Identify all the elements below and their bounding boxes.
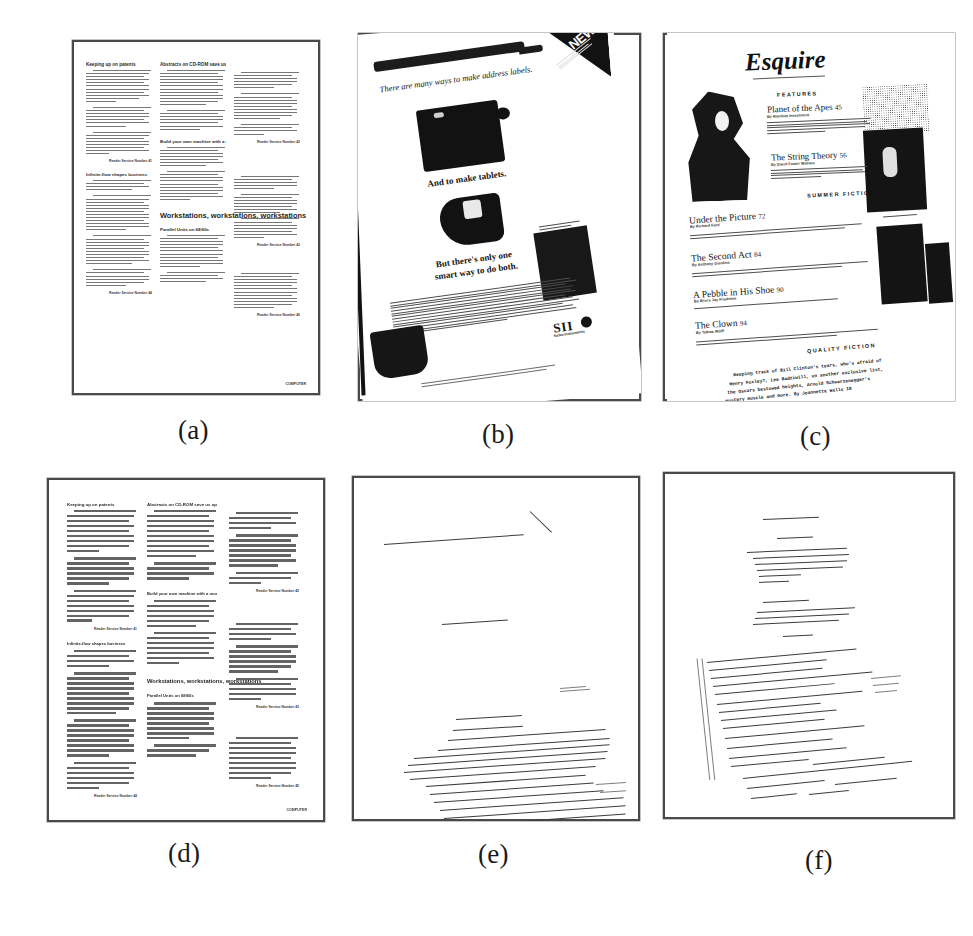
panel-e-segments (352, 476, 640, 821)
heading-parallel-units: Parallel Units on 68/60s (160, 227, 226, 232)
smeared-heading-workstations: Workstations, workstations, workstations (147, 678, 217, 684)
feature-byline-5: By Tobias Wolff (696, 329, 725, 335)
page-edge-shadow (358, 70, 366, 396)
heading-build-your-own: Build your own machine with a mouse (160, 139, 226, 144)
feature-byline-0: By Random Investment (767, 113, 809, 119)
caption-c: (c) (800, 421, 831, 452)
photo-inset-right-mid (876, 223, 927, 304)
baseline-segment (747, 780, 825, 789)
smeared-heading-3: Infinite-flow shapes business (67, 641, 137, 646)
handheld-device-screen (462, 199, 482, 219)
feature-byline-1: By David Foster Wallace (771, 161, 815, 167)
masthead-rule (753, 76, 825, 81)
reader-service-3: Reader Service Number 43 (234, 243, 300, 247)
baseline-segment (442, 619, 508, 625)
baseline-segment (727, 738, 833, 749)
panel-f-segments (663, 472, 955, 819)
feature-blurb-1 (771, 166, 871, 181)
baseline-segment (384, 534, 524, 545)
segmentation-page-d: Keeping up on patents (47, 478, 325, 822)
caption-f: (f) (805, 845, 833, 876)
smeared-heading-2: Abstracts on CD-ROM save us option (147, 502, 217, 507)
document-page-a: Keeping up on patents (72, 40, 320, 395)
baseline-cluster-body (400, 738, 620, 821)
section-heading-features: FEATURES (777, 90, 818, 98)
panel-c: Esquire FEATURES Planet of the Apes 45 (663, 33, 955, 401)
reader-service-1: Reader Service Number 41 (86, 159, 152, 163)
baseline-segment (438, 738, 610, 751)
sii-logo-mark (580, 316, 593, 329)
baseline-segment (404, 758, 606, 773)
baseline-segment (731, 759, 809, 767)
caption-b: (b) (482, 419, 514, 450)
caption-a: (a) (178, 415, 209, 446)
photo-inset-far-right (925, 242, 953, 304)
section-heading-quality-fiction: QUALITY FICTION (807, 342, 876, 354)
panel-f (663, 472, 955, 819)
caption-d: (d) (168, 838, 200, 869)
esquire-masthead: Esquire (744, 45, 826, 76)
section-heading-summer-fiction: SUMMER FICTION (807, 189, 875, 198)
caption-make-labels: And to make tablets. (427, 168, 507, 189)
panel-b: NEW! There are many ways to make address… (358, 33, 641, 401)
esquire-contents-sheet: Esquire FEATURES Planet of the Apes 45 (667, 33, 955, 401)
reader-service-4: Reader Service Number 44 (86, 291, 152, 295)
baseline-segment (456, 715, 522, 720)
smeared-ref-1: Reader Service Number 41 (67, 627, 137, 631)
baseline-segment (410, 766, 596, 780)
heading-infinite-flow: Infinite-flow shapes business (86, 172, 152, 177)
page-footer-a: COMPUTER (285, 382, 306, 386)
baseline-segment (717, 691, 862, 705)
smeared-heading-parallel: Parallel Units on 68/60s (147, 693, 217, 698)
smeared-ref-3: Reader Service Number 43 (229, 705, 299, 709)
photo-inset-caption-lines (883, 214, 925, 220)
smeared-ref-5: Reader Service Number 45 (229, 784, 299, 788)
panel-a: Keeping up on patents (72, 40, 320, 395)
feature-page-4: 90 (776, 286, 784, 294)
baseline-segment (596, 782, 626, 785)
label-printer-roller (495, 107, 510, 121)
baseline-segment (713, 672, 872, 687)
panel-c-page: Esquire FEATURES Planet of the Apes 45 (663, 33, 955, 401)
feature-page-0: 45 (835, 103, 842, 111)
illustration-figure-left (683, 90, 757, 202)
feature-page-1: 56 (839, 151, 846, 159)
heading-workstations: Workstations, workstations, workstations (160, 211, 226, 220)
baseline-segment (600, 790, 626, 793)
baseline-segment (871, 675, 901, 679)
smeared-page-footer: COMPUTER (286, 808, 307, 812)
heading-abstracts-cdrom: Abstracts on CD-ROM save us option (160, 62, 226, 67)
feature-blurb-0 (767, 118, 873, 136)
panel-e (352, 476, 640, 821)
panel-b-page: NEW! There are many ways to make address… (358, 33, 641, 401)
headline-script: There are many ways to make address labe… (379, 64, 533, 95)
baseline-segment (707, 648, 856, 663)
baseline-segment (809, 790, 849, 795)
label-printer-photo (416, 100, 506, 173)
baseline-cluster-lower (663, 472, 955, 819)
feature-byline-2: By Richard Ford (690, 223, 720, 229)
advertisement-sheet: NEW! There are many ways to make address… (358, 33, 641, 401)
panel-a-page: Keeping up on patents (72, 40, 320, 395)
document-analysis-figure: Keeping up on patents (0, 0, 973, 936)
baseline-segment (729, 747, 847, 759)
smeared-ref-4: Reader Service Number 44 (67, 794, 137, 798)
baseline-segment (560, 689, 590, 692)
baseline-segment (835, 778, 897, 785)
feature-page-2: 72 (758, 212, 766, 220)
smeared-heading-4: Build your own machine with a mouse (147, 591, 217, 596)
bottom-product-photo (369, 325, 430, 381)
baseline-segment (873, 683, 899, 686)
smeared-ref-2: Reader Service Number 42 (229, 589, 299, 593)
panel-d-page: Keeping up on patents (47, 478, 325, 822)
feature-page-3: 84 (754, 251, 762, 259)
photo-figure-right-highlight (882, 147, 898, 178)
smeared-heading-1: Keeping up on patents (67, 502, 137, 507)
reader-service-5: Reader Service Number 45 (234, 313, 300, 317)
baseline-segment (875, 690, 897, 693)
feature-page-5: 94 (740, 319, 748, 327)
baseline-segment (723, 719, 825, 729)
ad-legal-fineprint (421, 362, 570, 388)
baseline-segment (530, 511, 552, 533)
baseline-segment (725, 725, 865, 739)
